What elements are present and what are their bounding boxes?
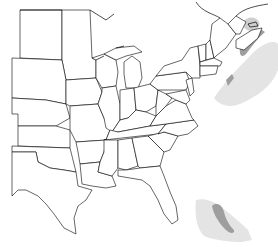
- state-ohio: [134, 84, 158, 112]
- state-north-dakota: [20, 10, 62, 60]
- state-kansas: [18, 126, 70, 148]
- state-minnesota: [62, 10, 96, 80]
- range-map: [0, 0, 278, 247]
- state-michigan-lower: [124, 56, 142, 88]
- state-new-york: [156, 46, 200, 78]
- state-connecticut-ri: [200, 66, 218, 76]
- state-florida: [118, 166, 178, 224]
- state-south-dakota: [12, 58, 66, 104]
- state-iowa: [66, 78, 102, 106]
- quebec-coast: [196, 2, 268, 18]
- map-canvas: [0, 0, 278, 247]
- state-pennsylvania: [150, 72, 190, 90]
- state-boundaries: [12, 2, 268, 234]
